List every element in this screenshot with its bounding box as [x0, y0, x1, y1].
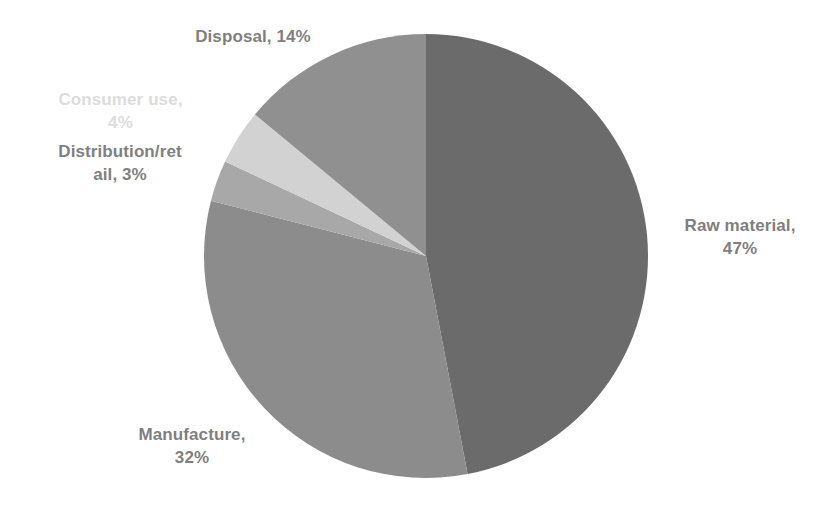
pie-label-consumer-use: Consumer use, 4% — [18, 89, 223, 135]
pie-label-distribution-retail: Distribution/ret ail, 3% — [22, 141, 218, 187]
pie-slice-group — [204, 34, 648, 478]
pie-label-disposal: Disposal, 14% — [148, 26, 358, 49]
pie-label-raw-material: Raw material, 47% — [650, 215, 830, 261]
pie-label-manufacture: Manufacture, 32% — [92, 424, 292, 470]
